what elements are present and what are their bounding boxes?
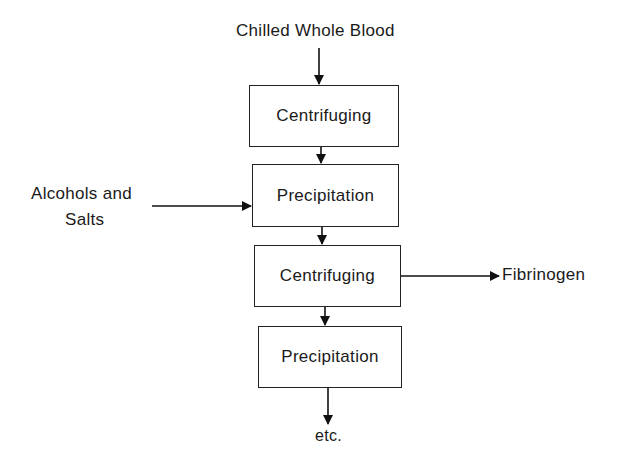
step-centrifuging-1: Centrifuging bbox=[249, 85, 399, 147]
step-label: Centrifuging bbox=[276, 106, 371, 126]
step-precipitation-2: Precipitation bbox=[258, 326, 402, 388]
output-label-etc: etc. bbox=[315, 427, 342, 445]
step-centrifuging-2: Centrifuging bbox=[254, 245, 401, 307]
input-label-chilled-whole-blood: Chilled Whole Blood bbox=[236, 21, 395, 41]
connector-layer bbox=[0, 0, 635, 464]
side-input-label-line2: Salts bbox=[65, 210, 104, 230]
output-label-fibrinogen: Fibrinogen bbox=[502, 265, 585, 285]
step-label: Centrifuging bbox=[280, 266, 375, 286]
step-label: Precipitation bbox=[281, 347, 378, 367]
step-label: Precipitation bbox=[277, 186, 374, 206]
side-input-label-line1: Alcohols and bbox=[31, 184, 132, 204]
step-precipitation-1: Precipitation bbox=[252, 164, 399, 227]
